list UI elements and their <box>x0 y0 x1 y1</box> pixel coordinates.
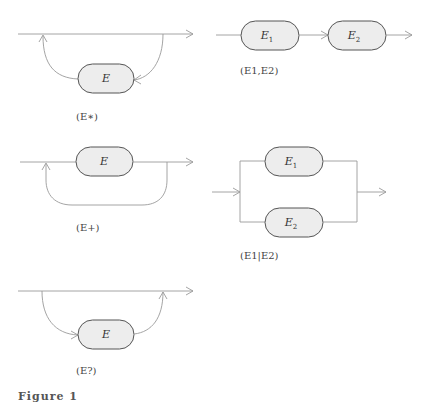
caption-star: (E∗) <box>76 111 98 122</box>
caption-choice: (E1|E2) <box>240 250 279 261</box>
figure-caption: Figure 1 <box>18 390 78 403</box>
diagram-choice: E1 E2 <box>212 147 386 237</box>
node-e-label: E <box>101 328 110 341</box>
bypass-edge-out <box>134 292 163 334</box>
caption-optional: (E?) <box>76 365 96 376</box>
node-e-label: E <box>101 72 110 85</box>
diagram-optional: E <box>18 287 193 349</box>
diagram-sequence: E1 E2 <box>216 21 412 50</box>
bypass-edge-in <box>42 291 78 335</box>
caption-sequence: (E1,E2) <box>240 65 278 76</box>
join-branch <box>323 161 357 222</box>
loop-edge-right <box>134 34 163 80</box>
caption-plus: (E+) <box>76 222 99 233</box>
diagram-star: E <box>18 30 193 93</box>
loop-edge-left <box>43 36 78 79</box>
diagram-plus: E <box>20 147 193 205</box>
node-e-label: E <box>99 155 108 168</box>
split-branch <box>240 161 265 222</box>
